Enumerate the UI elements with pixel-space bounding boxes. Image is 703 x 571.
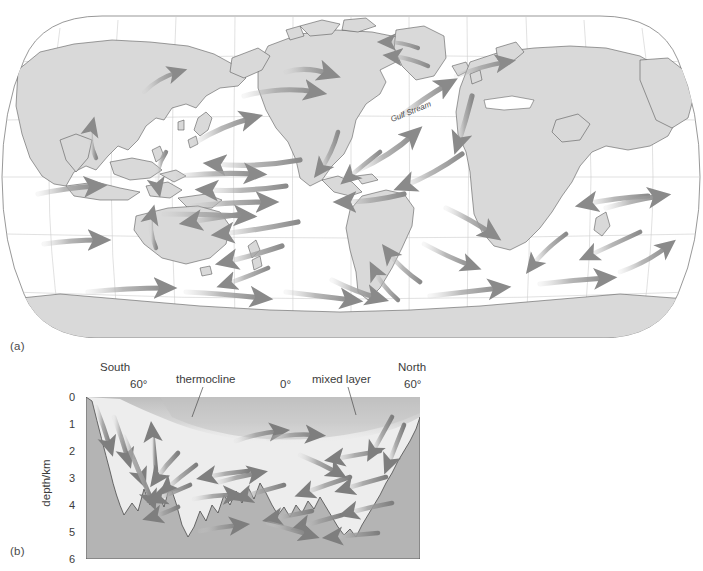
depth-axis-title: depth/km: [40, 459, 52, 506]
world-map-panel: Gulf Stream: [0, 0, 703, 338]
ocean-circulation-figure: Gulf Stream (a): [0, 0, 703, 571]
south-latitude-label: 60°: [130, 378, 147, 390]
equator-label: 0°: [280, 378, 291, 390]
north-label: North: [398, 361, 426, 373]
north-latitude-label: 60°: [404, 378, 421, 390]
thermocline-label: thermocline: [176, 373, 235, 385]
panel-label-b: (b): [10, 545, 25, 557]
south-label: South: [100, 361, 130, 373]
depth-axis: 0 1 2 3 4 5 6: [69, 391, 86, 565]
mixed-layer-label: mixed layer: [312, 373, 371, 385]
depth-tick-4: 4: [69, 499, 75, 511]
depth-tick-3: 3: [69, 472, 75, 484]
cross-section-panel: 0 1 2 3 4 5 6 depth/km South 60° thermoc…: [0, 355, 703, 571]
panel-label-a: (a): [10, 340, 25, 352]
depth-tick-1: 1: [69, 418, 75, 430]
depth-tick-2: 2: [69, 445, 75, 457]
depth-tick-0: 0: [69, 391, 75, 403]
depth-tick-6: 6: [69, 553, 75, 565]
depth-tick-5: 5: [69, 526, 75, 538]
